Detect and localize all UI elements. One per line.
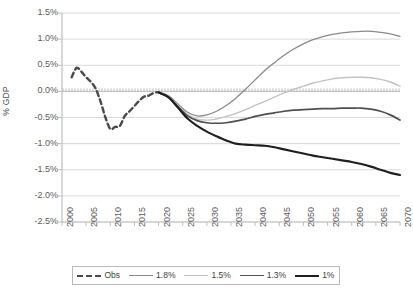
legend-swatch-line bbox=[77, 275, 101, 277]
series-line-obs bbox=[72, 68, 164, 130]
y-tick-label: -1.0% bbox=[24, 139, 58, 148]
legend-label: 1% bbox=[322, 271, 334, 280]
series-line-1- bbox=[159, 92, 400, 175]
legend-swatch-line bbox=[184, 275, 208, 276]
y-axis-tick-labels: 1.5%1.0%0.5%0.0%-0.5%-1.0%-1.5%-2.0%-2.5… bbox=[20, 0, 58, 295]
legend-label: 1.8% bbox=[156, 271, 175, 280]
legend-label: Obs bbox=[104, 271, 120, 280]
y-tick-label: -0.5% bbox=[24, 113, 58, 122]
y-tick-label: -2.5% bbox=[24, 217, 58, 226]
y-tick-label: 1.5% bbox=[24, 8, 58, 17]
y-tick-label: 1.0% bbox=[24, 34, 58, 43]
series-line-1-5- bbox=[159, 77, 400, 120]
legend-item[interactable]: Obs bbox=[77, 271, 120, 280]
series-line-1-8- bbox=[159, 31, 400, 116]
legend-label: 1.5% bbox=[211, 271, 230, 280]
legend-item[interactable]: 1.5% bbox=[184, 271, 230, 280]
y-tick-label: -1.5% bbox=[24, 165, 58, 174]
legend-item[interactable]: 1.3% bbox=[240, 271, 286, 280]
legend-swatch-line bbox=[295, 275, 319, 277]
legend-label: 1.3% bbox=[267, 271, 286, 280]
legend-swatch-line bbox=[129, 275, 153, 276]
y-tick-label: 0.5% bbox=[24, 60, 58, 69]
legend-swatch-line bbox=[240, 275, 264, 276]
y-tick-label: -2.0% bbox=[24, 191, 58, 200]
legend-item[interactable]: 1% bbox=[295, 271, 334, 280]
chart-legend: Obs1.8%1.5%1.3%1% bbox=[72, 266, 340, 285]
legend-item[interactable]: 1.8% bbox=[129, 271, 175, 280]
y-tick-label: 0.0% bbox=[24, 86, 58, 95]
